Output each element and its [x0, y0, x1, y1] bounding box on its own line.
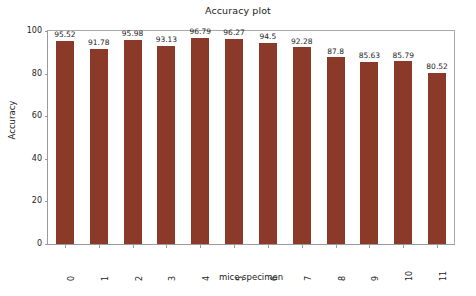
bar — [191, 38, 209, 244]
bar — [327, 57, 345, 244]
x-tick-mark — [403, 244, 404, 248]
y-tick-label: 40 — [16, 155, 42, 163]
bar-value-label: 96.79 — [190, 28, 211, 36]
chart-figure: Accuracy plot Accuracy 020406080100 95.5… — [0, 0, 476, 296]
y-tick-mark — [45, 244, 49, 245]
y-tick-label: 20 — [16, 197, 42, 205]
bar-value-label: 95.52 — [54, 31, 75, 39]
bar-value-label: 94.5 — [260, 33, 277, 41]
bar-value-label: 80.52 — [426, 63, 447, 71]
x-axis-label: mice specimen — [47, 272, 455, 282]
y-tick-label: 80 — [16, 70, 42, 78]
x-tick-mark — [437, 244, 438, 248]
y-tick-mark — [45, 159, 49, 160]
bar-value-label: 92.28 — [291, 38, 312, 46]
x-tick-mark — [99, 244, 100, 248]
x-tick-mark — [133, 244, 134, 248]
bar-value-label: 96.27 — [223, 29, 244, 37]
y-tick-label: 60 — [16, 112, 42, 120]
y-tick-mark — [45, 74, 49, 75]
bar — [225, 39, 243, 244]
y-tick-label: 100 — [16, 27, 42, 35]
bar-value-label: 85.79 — [393, 52, 414, 60]
x-tick-mark — [369, 244, 370, 248]
bar — [90, 49, 108, 244]
bar — [124, 40, 142, 244]
bar — [360, 62, 378, 244]
y-tick-mark — [45, 31, 49, 32]
y-tick-mark — [45, 201, 49, 202]
y-tick-mark — [45, 116, 49, 117]
bar — [157, 46, 175, 244]
bar — [56, 41, 74, 244]
x-tick-mark — [200, 244, 201, 248]
bar-value-label: 95.98 — [122, 30, 143, 38]
x-tick-mark — [268, 244, 269, 248]
x-tick-mark — [336, 244, 337, 248]
bar-value-label: 91.78 — [88, 39, 109, 47]
x-tick-mark — [302, 244, 303, 248]
chart-title: Accuracy plot — [0, 5, 476, 16]
y-tick-label: 0 — [16, 240, 42, 248]
bar-value-label: 87.8 — [327, 48, 344, 56]
plot-area: 020406080100 95.5291.7895.9893.1396.7996… — [47, 30, 455, 245]
bar — [428, 73, 446, 245]
bar-value-label: 85.63 — [359, 52, 380, 60]
bar-value-label: 93.13 — [156, 36, 177, 44]
bar — [394, 61, 412, 244]
x-tick-mark — [166, 244, 167, 248]
x-tick-mark — [234, 244, 235, 248]
bar — [259, 43, 277, 244]
bar — [293, 47, 311, 244]
x-tick-mark — [65, 244, 66, 248]
